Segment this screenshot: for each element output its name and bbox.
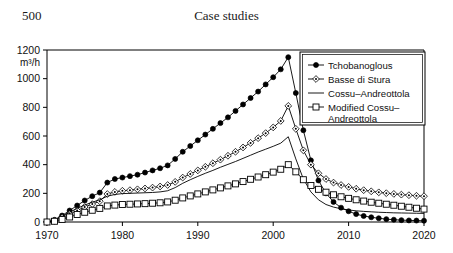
- data-point-marker: [195, 138, 200, 143]
- data-point-marker: [391, 217, 396, 222]
- data-point-marker: [82, 209, 88, 215]
- data-point-marker: [248, 176, 254, 182]
- chart-svg: 020040060080010001200m³/h197019801990200…: [0, 34, 453, 253]
- data-point-marker: [119, 202, 125, 208]
- chart-figure: 020040060080010001200m³/h197019801990200…: [0, 34, 453, 253]
- data-point-marker: [406, 218, 411, 223]
- data-point-marker: [67, 214, 73, 220]
- data-point-marker: [157, 200, 163, 206]
- data-point-marker-dot: [242, 146, 244, 148]
- data-point-marker: [158, 166, 163, 171]
- data-point-marker-dot: [159, 185, 161, 187]
- data-point-marker: [278, 67, 283, 72]
- data-point-marker: [82, 198, 87, 203]
- data-point-marker: [376, 216, 381, 221]
- legend-label-cont: Andreottola: [328, 113, 378, 124]
- data-point-marker: [286, 55, 291, 60]
- data-point-marker: [316, 178, 321, 183]
- data-point-marker: [323, 189, 329, 195]
- data-point-marker-dot: [121, 190, 123, 192]
- data-point-marker: [270, 169, 276, 175]
- data-point-marker: [278, 166, 284, 172]
- data-point-marker: [202, 189, 208, 195]
- data-point-marker: [376, 200, 382, 206]
- data-point-marker: [346, 195, 352, 201]
- data-point-marker: [173, 156, 178, 161]
- data-point-marker: [180, 149, 185, 154]
- chart-legend: TchobanoglousBasse di SturaCossu–Andreot…: [300, 52, 425, 125]
- data-point-marker-dot: [287, 105, 289, 107]
- y-axis-unit-label: m³/h: [20, 57, 40, 68]
- data-point-marker: [240, 179, 246, 185]
- data-point-marker: [406, 204, 412, 210]
- data-point-marker: [188, 144, 193, 149]
- y-tick-label: 1000: [17, 72, 41, 84]
- data-point-marker: [414, 218, 419, 223]
- data-point-marker-dot: [219, 159, 221, 161]
- data-point-marker: [172, 197, 178, 203]
- data-point-marker-dot: [295, 128, 297, 130]
- data-point-marker: [361, 198, 367, 204]
- data-point-marker: [120, 175, 125, 180]
- data-point-marker: [218, 121, 223, 126]
- page-root: 500 Case studies 020040060080010001200m³…: [0, 0, 453, 253]
- data-point-marker-dot: [167, 184, 169, 186]
- data-point-marker: [225, 183, 231, 189]
- data-point-marker: [143, 170, 148, 175]
- data-point-marker: [369, 215, 374, 220]
- x-tick-label: 1970: [35, 229, 59, 241]
- x-tick-label: 2010: [337, 229, 361, 241]
- data-point-marker: [195, 191, 201, 197]
- data-point-marker: [135, 172, 140, 177]
- data-point-marker: [150, 200, 156, 206]
- data-point-marker-dot: [408, 194, 410, 196]
- data-point-marker-dot: [355, 188, 357, 190]
- data-point-marker: [112, 202, 118, 208]
- y-tick-label: 600: [22, 130, 40, 142]
- data-point-marker-dot: [152, 187, 154, 189]
- legend-label: Basse di Stura: [328, 74, 391, 85]
- data-point-marker: [180, 195, 186, 201]
- data-point-marker: [399, 218, 404, 223]
- data-point-marker-dot: [144, 187, 146, 189]
- data-point-marker: [210, 126, 215, 131]
- data-point-marker: [361, 213, 366, 218]
- data-point-marker: [142, 201, 148, 207]
- running-head: 500 Case studies: [0, 8, 453, 28]
- data-point-marker: [225, 115, 230, 120]
- data-point-marker-dot: [235, 151, 237, 153]
- data-point-marker: [331, 199, 336, 204]
- legend-marker: [313, 104, 319, 110]
- series-line: [47, 165, 424, 222]
- data-point-marker: [368, 199, 374, 205]
- data-point-marker: [271, 75, 276, 80]
- data-point-marker-dot: [212, 162, 214, 164]
- data-point-marker: [52, 218, 58, 224]
- data-point-marker-dot: [272, 126, 274, 128]
- data-point-marker: [384, 217, 389, 222]
- data-point-marker: [217, 185, 223, 191]
- y-tick-label: 800: [22, 101, 40, 113]
- data-point-marker-dot: [385, 192, 387, 194]
- data-point-marker: [263, 82, 268, 87]
- data-point-marker-dot: [393, 193, 395, 195]
- data-point-marker-dot: [302, 149, 304, 151]
- data-point-marker-dot: [204, 166, 206, 168]
- data-point-marker: [112, 177, 117, 182]
- data-point-marker-dot: [174, 181, 176, 183]
- data-point-marker-dot: [340, 184, 342, 186]
- data-point-marker: [301, 128, 306, 133]
- data-point-marker: [308, 182, 314, 188]
- data-point-marker: [104, 203, 110, 209]
- data-point-marker: [354, 212, 359, 217]
- data-point-marker: [338, 194, 344, 200]
- x-tick-label: 1980: [111, 229, 135, 241]
- data-point-marker: [353, 197, 359, 203]
- data-point-marker: [293, 169, 299, 175]
- y-tick-label: 1200: [17, 44, 41, 56]
- data-point-marker: [315, 186, 321, 192]
- data-point-marker: [233, 181, 239, 187]
- y-tick-label: 200: [22, 187, 40, 199]
- data-point-marker-dot: [310, 164, 312, 166]
- data-point-marker-dot: [370, 190, 372, 192]
